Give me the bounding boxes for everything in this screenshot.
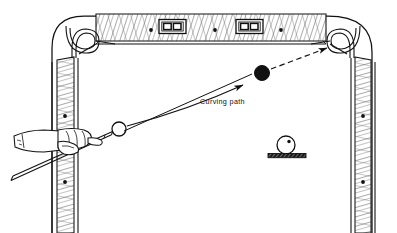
object-ball-path-arrow bbox=[271, 48, 327, 69]
object-ball bbox=[255, 66, 270, 81]
rail-plaque-right bbox=[236, 20, 263, 34]
diagram-svg: Curving path bbox=[0, 0, 397, 233]
top-rail bbox=[96, 14, 326, 44]
inset-ball bbox=[277, 136, 295, 154]
cue-ball bbox=[112, 122, 126, 136]
rail-plaque-left bbox=[159, 20, 186, 34]
bridge-hand bbox=[14, 129, 102, 155]
inset-contact-dot bbox=[287, 140, 290, 143]
inset-base-bar bbox=[268, 154, 306, 158]
curving-path-label: Curving path bbox=[200, 97, 245, 106]
billiard-diagram-canvas: Curving path bbox=[0, 0, 397, 233]
tip-contact-inset bbox=[268, 136, 306, 158]
right-rail bbox=[351, 57, 375, 233]
